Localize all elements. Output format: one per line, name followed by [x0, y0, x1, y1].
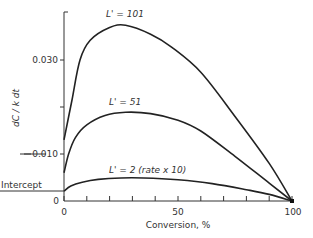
curve-label-L2: L' = 2 (rate x 10): [109, 165, 186, 175]
y-tick-label-0: 0: [53, 196, 59, 206]
curve-label-L101: L' = 101: [106, 9, 144, 19]
intercept-label: Intercept: [1, 180, 42, 190]
x-tick-label-50: 50: [172, 207, 184, 217]
y-tick-label-0.030: 0.030: [32, 55, 58, 65]
convergence-point: [290, 199, 294, 203]
x-tick-label-0: 0: [61, 207, 67, 217]
x-axis-title: Conversion, %: [146, 220, 211, 230]
y-ticks: [24, 60, 64, 154]
x-ticks: [64, 196, 292, 201]
chart: 0.030 0.010 0 0 50 100 Conversion, % dC …: [0, 0, 313, 238]
x-tick-label-100: 100: [284, 207, 301, 217]
curve-L51: [64, 112, 292, 201]
y-axis-title: dC / k dt: [11, 89, 21, 128]
curve-label-L51: L' = 51: [109, 97, 141, 107]
